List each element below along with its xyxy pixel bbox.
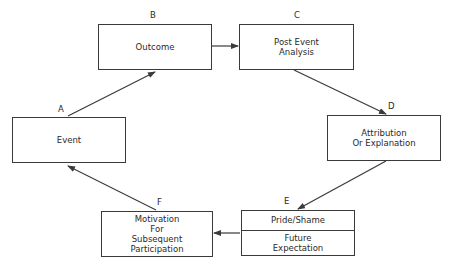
node-motivation-line1: Motivation	[135, 214, 180, 224]
node-letter-a: A	[58, 104, 64, 114]
node-pride-shame: Pride/Shame	[242, 211, 354, 231]
arrow-f-to-a	[68, 166, 156, 210]
node-event: Event	[12, 117, 126, 163]
node-motivation-line2: For	[150, 224, 163, 234]
node-pride-shame-text: Pride/Shame	[271, 215, 325, 226]
node-letter-f: F	[157, 197, 162, 207]
node-outcome-text: Outcome	[136, 42, 175, 53]
node-event-text: Event	[57, 135, 81, 146]
node-outcome: Outcome	[98, 24, 212, 70]
node-attribution-line1: Attribution	[361, 128, 406, 139]
node-future-expectation: Future Expectation	[242, 231, 354, 255]
node-letter-d: D	[388, 101, 395, 111]
node-attribution-line2: Or Explanation	[352, 138, 415, 149]
node-post-event-analysis-line2: Analysis	[279, 47, 314, 58]
node-motivation-line4: Participation	[130, 244, 183, 254]
node-letter-e: E	[284, 196, 289, 206]
arrow-d-to-e	[298, 161, 386, 209]
node-attribution: Attribution Or Explanation	[327, 115, 441, 161]
node-future-expectation-line2: Expectation	[273, 243, 324, 254]
arrow-c-to-d	[294, 70, 386, 114]
node-letter-c: C	[294, 10, 300, 20]
node-post-event-analysis: Post Event Analysis	[239, 24, 354, 70]
node-motivation-line3: Subsequent	[132, 234, 183, 244]
node-motivation: Motivation For Subsequent Participation	[101, 211, 213, 257]
node-pride-shame-expectation: Pride/Shame Future Expectation	[241, 210, 355, 256]
arrow-a-to-b	[68, 72, 155, 116]
node-letter-b: B	[150, 10, 156, 20]
node-post-event-analysis-line1: Post Event	[274, 37, 319, 48]
node-future-expectation-line1: Future	[284, 233, 311, 244]
